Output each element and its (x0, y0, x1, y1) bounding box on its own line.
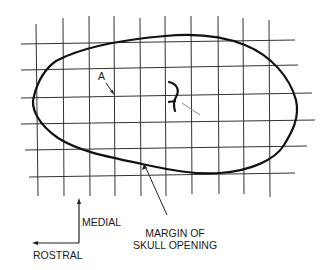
medial-label: MEDIAL (82, 217, 121, 228)
arrow-up-icon (77, 198, 81, 243)
grid-vertical-line (269, 20, 270, 197)
grid-horizontal-line (21, 65, 298, 70)
grid-horizontal-line (21, 120, 315, 124)
margin-label-line2: SKULL OPENING (130, 240, 220, 251)
grid-vertical-line (63, 18, 64, 196)
grid-vertical-line (218, 16, 219, 194)
point-a-label: A (98, 71, 105, 82)
grid-horizontal-line (21, 93, 312, 98)
vessel-branch (168, 101, 176, 102)
grid-vertical-line (140, 18, 141, 196)
vessel-mark (169, 82, 178, 111)
rostral-label: ROSTRAL (33, 250, 83, 261)
pointer-a-arrow (106, 83, 114, 95)
grid-vertical-line (191, 16, 192, 194)
grid-vertical-line (36, 24, 38, 196)
margin-label-line1: MARGIN OF (130, 228, 220, 239)
arrow-left-icon (32, 241, 79, 245)
grid-horizontal-line (21, 40, 295, 44)
margin-pointer-arrow (142, 164, 167, 215)
grid-horizontal-line (29, 173, 295, 177)
